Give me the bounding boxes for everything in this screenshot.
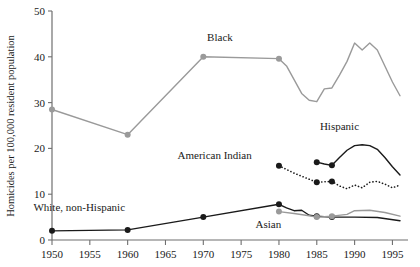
y-axis-title: Homicides per 100,000 resident populatio… bbox=[5, 34, 16, 216]
data-point-marker bbox=[314, 179, 320, 185]
series-label-black: Black bbox=[207, 31, 233, 43]
y-tick-label: 10 bbox=[34, 188, 46, 200]
x-tick-label: 1980 bbox=[268, 248, 291, 260]
x-tick-label: 1960 bbox=[117, 248, 140, 260]
homicide-rate-line-chart: 0102030405019501955196019651970197519801… bbox=[0, 0, 420, 267]
series-american-indian bbox=[276, 163, 400, 189]
x-tick-label: 1995 bbox=[381, 248, 404, 260]
x-tick-label: 1965 bbox=[154, 248, 177, 260]
x-tick-label: 1990 bbox=[344, 248, 367, 260]
axes: 0102030405019501955196019651970197519801… bbox=[34, 5, 408, 260]
data-point-marker bbox=[200, 214, 206, 220]
series-label-hispanic: Hispanic bbox=[320, 120, 359, 132]
data-point-marker bbox=[276, 209, 282, 215]
data-point-marker bbox=[314, 214, 320, 220]
data-point-marker bbox=[125, 132, 131, 138]
x-tick-label: 1985 bbox=[306, 248, 329, 260]
data-point-marker bbox=[125, 227, 131, 233]
series-hispanic bbox=[314, 145, 400, 175]
series-label-american-indian: American Indian bbox=[178, 149, 253, 161]
series-annotations: BlackHispanicAmerican IndianWhite, non-H… bbox=[33, 31, 359, 230]
data-point-marker bbox=[49, 228, 55, 234]
series-line bbox=[317, 145, 400, 175]
data-point-marker bbox=[276, 163, 282, 169]
data-point-marker bbox=[276, 201, 282, 207]
y-tick-label: 30 bbox=[34, 97, 46, 109]
x-tick-label: 1975 bbox=[230, 248, 253, 260]
x-tick-label: 1950 bbox=[41, 248, 64, 260]
x-tick-label: 1970 bbox=[192, 248, 215, 260]
data-point-marker bbox=[329, 178, 335, 184]
x-tick-label: 1955 bbox=[79, 248, 102, 260]
data-point-marker bbox=[276, 56, 282, 62]
data-point-marker bbox=[329, 213, 335, 219]
y-tick-label: 20 bbox=[34, 142, 46, 154]
series-label-asian: Asian bbox=[256, 218, 282, 230]
chart-container: 0102030405019501955196019651970197519801… bbox=[0, 0, 420, 267]
y-tick-label: 40 bbox=[34, 51, 46, 63]
data-point-marker bbox=[329, 162, 335, 168]
y-tick-label: 0 bbox=[40, 234, 46, 246]
data-point-marker bbox=[200, 54, 206, 60]
series-line bbox=[279, 166, 400, 189]
y-tick-label: 50 bbox=[34, 5, 46, 17]
data-point-marker bbox=[49, 106, 55, 112]
y-axis-title-group: Homicides per 100,000 resident populatio… bbox=[5, 34, 16, 216]
series-line bbox=[279, 210, 400, 217]
series-label-white-non-hispanic: White, non-Hispanic bbox=[33, 201, 125, 213]
data-point-marker bbox=[314, 159, 320, 165]
